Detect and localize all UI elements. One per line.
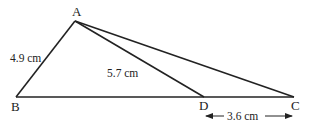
- measure-ad: 5.7 cm: [107, 67, 138, 79]
- triangle-diagram: A B D C 4.9 cm 5.7 cm 3.6 cm: [0, 0, 310, 126]
- point-label-c: C: [291, 98, 300, 113]
- measure-dc: 3.6 cm: [227, 110, 258, 122]
- point-label-b: B: [11, 99, 20, 114]
- measure-ab: 4.9 cm: [10, 52, 41, 64]
- point-label-d: D: [199, 98, 208, 113]
- point-label-a: A: [72, 4, 82, 19]
